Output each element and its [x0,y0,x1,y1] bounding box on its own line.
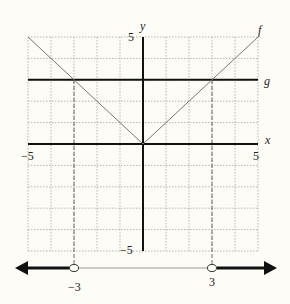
graph-canvas: y 5 −5 f g x −5 5 −3 3 [0,0,290,304]
tick-x-max: 5 [253,149,259,163]
label-y: y [139,19,146,33]
label-f: f [258,23,263,37]
tick-x-min: −5 [21,149,34,163]
label-x: x [264,133,271,147]
nl-label-right: 3 [209,275,215,289]
open-circle-right [208,265,217,272]
open-circle-left [70,265,79,272]
nl-label-left: −3 [68,280,81,294]
arrow-right-icon [264,261,277,275]
tick-y-min: −5 [120,243,133,257]
label-g: g [264,74,270,88]
arrow-left-icon [15,261,28,275]
tick-y-max: 5 [128,30,134,44]
